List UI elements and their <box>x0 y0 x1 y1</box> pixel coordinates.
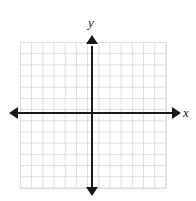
x-axis-label: x <box>183 106 189 119</box>
x-axis-line <box>14 112 177 114</box>
clipped-text-remnant <box>0 0 196 9</box>
x-axis-left-arrowhead-icon <box>9 107 18 119</box>
y-axis-line <box>91 46 93 191</box>
x-axis-right-arrowhead-icon <box>172 107 181 119</box>
y-axis-label: y <box>88 16 94 29</box>
y-axis-up-arrowhead-icon <box>86 35 98 44</box>
coordinate-plane-figure: y x <box>0 0 196 201</box>
graph-grid <box>20 42 167 189</box>
y-axis-down-arrowhead-icon <box>86 187 98 196</box>
